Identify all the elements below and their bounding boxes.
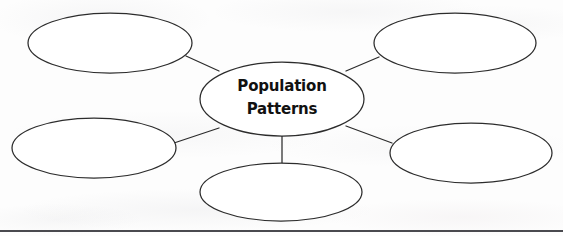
graphic-organizer-diagram: Population Patterns — [0, 0, 563, 236]
node-ellipse-bottom-right[interactable] — [390, 123, 552, 183]
center-topic-label-line2: Patterns — [247, 100, 318, 118]
node-ellipse-top-left[interactable] — [28, 13, 192, 73]
center-topic-label-line1: Population — [237, 77, 326, 95]
worksheet-page: Population Patterns — [0, 0, 563, 236]
connector-center-to-bottom-right — [346, 126, 392, 143]
node-ellipse-top-right[interactable] — [374, 13, 536, 73]
connector-center-to-top-left — [186, 56, 219, 71]
node-ellipse-bottom-left[interactable] — [12, 118, 176, 178]
center-topic-ellipse[interactable] — [200, 62, 364, 136]
footer-horizontal-rule — [0, 230, 563, 232]
node-ellipse-bottom-center[interactable] — [200, 163, 362, 221]
connector-center-to-bottom-left — [174, 128, 219, 143]
connector-center-to-top-right — [346, 57, 379, 71]
